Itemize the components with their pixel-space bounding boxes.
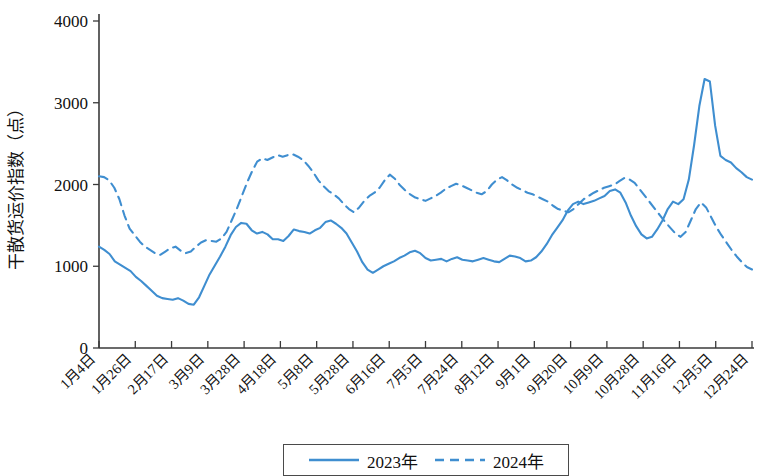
legend-swatch-dashed-icon [434, 455, 486, 465]
line-chart-svg: 干散货运价指数（点） 01000200030004000 1月4日1月26日2月… [0, 0, 758, 476]
y-axis-ticks [93, 21, 99, 348]
legend-item-2024: 2024年 [434, 448, 544, 473]
legend-label-2024: 2024年 [493, 448, 544, 473]
series-line-2023 [99, 79, 752, 305]
x-axis-tick-label: 8月12日 [451, 351, 497, 397]
y-axis-tick-label: 1000 [54, 257, 88, 276]
x-axis-tick-labels: 1月4日1月26日2月17日3月9日3月28日4月18日5月8日5月28日6月1… [57, 351, 751, 403]
chart-root: 干散货运价指数（点） 01000200030004000 1月4日1月26日2月… [0, 0, 758, 476]
x-axis-ticks [99, 341, 752, 348]
legend-swatch-solid-icon [308, 455, 360, 465]
x-axis-tick-label: 2月17日 [124, 351, 170, 397]
chart-legend: 2023年 2024年 [283, 444, 569, 476]
legend-label-2023: 2023年 [367, 448, 418, 473]
y-axis-tick-label: 3000 [54, 94, 88, 113]
x-axis-tick-label: 6月16日 [342, 351, 388, 397]
legend-item-2023: 2023年 [308, 448, 418, 473]
y-axis-tick-label: 2000 [54, 176, 88, 195]
y-axis-title: 干散货运价指数（点） [7, 100, 26, 270]
x-axis-tick-label: 4月18日 [233, 351, 279, 397]
y-axis-tick-labels: 01000200030004000 [54, 12, 88, 358]
y-axis-tick-label: 4000 [54, 12, 88, 31]
series-line-2024 [99, 154, 752, 269]
